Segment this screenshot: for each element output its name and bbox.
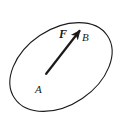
figure-canvas: F B A <box>0 0 119 139</box>
point-a-label: A <box>35 84 42 95</box>
point-a-marker <box>45 73 47 75</box>
point-b-label: B <box>82 32 89 43</box>
vector-diagram-svg <box>0 0 119 139</box>
force-vector-label: F <box>59 28 67 40</box>
plane-ellipse <box>0 4 119 130</box>
